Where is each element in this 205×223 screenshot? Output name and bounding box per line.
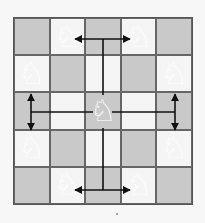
square — [50, 130, 86, 167]
square: ♘ — [50, 18, 86, 55]
square — [121, 55, 157, 92]
square — [85, 55, 121, 92]
square — [121, 92, 157, 129]
square-a — [14, 18, 50, 55]
knight-icon: ♘ — [54, 170, 81, 200]
square — [50, 92, 86, 129]
square: ♘ — [156, 55, 192, 92]
square — [85, 130, 121, 167]
dot-mark — [116, 213, 118, 215]
square — [156, 18, 192, 55]
square — [85, 167, 121, 204]
square: ♘ — [50, 167, 86, 204]
knight-icon: ♘ — [161, 59, 188, 89]
square — [121, 130, 157, 167]
square — [156, 92, 192, 129]
square — [14, 167, 50, 204]
square: ♘ — [14, 130, 50, 167]
square: ♘ — [14, 55, 50, 92]
chess-board: ♘ ♘ ♘ ♘ ♘ ♘ ♘ ♘ ♘ — [13, 17, 193, 205]
square-center: ♘ — [85, 92, 121, 129]
square — [14, 92, 50, 129]
knight-icon: ♘ — [18, 59, 45, 89]
knight-icon: ♘ — [18, 133, 45, 163]
knight-icon: ♘ — [125, 170, 152, 200]
square: ♘ — [156, 130, 192, 167]
square: ♘ — [121, 18, 157, 55]
square — [50, 55, 86, 92]
knight-icon: ♘ — [125, 22, 152, 52]
square — [156, 167, 192, 204]
knight-icon: ♘ — [90, 96, 117, 126]
square — [85, 18, 121, 55]
square: ♘ — [121, 167, 157, 204]
knight-icon: ♘ — [161, 133, 188, 163]
knight-icon: ♘ — [54, 22, 81, 52]
